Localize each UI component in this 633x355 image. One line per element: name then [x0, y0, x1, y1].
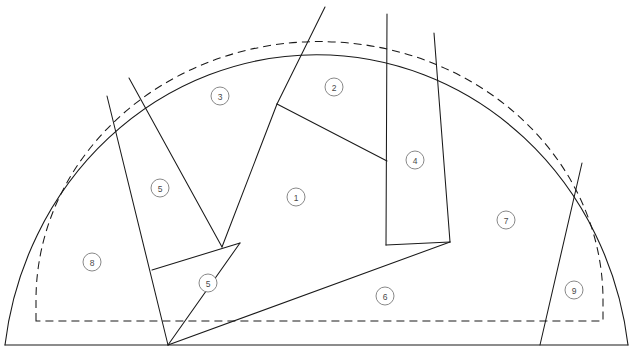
inner-dashed-arc — [36, 42, 603, 321]
divider-lines-group — [107, 7, 582, 345]
region-label-text-9: 9 — [572, 286, 577, 296]
outer-arc — [5, 55, 628, 345]
divider-1-2 — [277, 7, 325, 104]
region-label-text-2: 2 — [332, 83, 337, 93]
divider-1-6-right — [386, 242, 450, 245]
region-label-9[interactable]: 9 — [565, 281, 583, 299]
region-label-text-5a: 5 — [158, 184, 163, 194]
region-labels-group: 1234556789 — [83, 78, 583, 305]
region-label-8[interactable]: 8 — [83, 253, 101, 271]
region-label-text-4: 4 — [413, 156, 418, 166]
divider-8-5a — [107, 96, 168, 345]
region-label-1[interactable]: 1 — [287, 188, 305, 206]
region-label-6[interactable]: 6 — [376, 287, 394, 305]
divider-3-1 — [222, 104, 277, 247]
divider-4-7 — [434, 33, 450, 242]
dome-diagram: 1234556789 — [0, 0, 633, 355]
dome-outline-group — [5, 55, 628, 345]
region-label-5b[interactable]: 5 — [199, 274, 217, 292]
region-label-text-8: 8 — [90, 258, 95, 268]
divider-5a-3 — [129, 78, 222, 247]
inner-dashed-boundary-group — [36, 42, 603, 321]
region-label-2[interactable]: 2 — [325, 78, 343, 96]
divider-5a-5b — [152, 243, 240, 270]
divider-1-top — [277, 104, 387, 161]
region-label-3[interactable]: 3 — [211, 87, 229, 105]
region-label-text-7: 7 — [504, 216, 509, 226]
region-label-4[interactable]: 4 — [406, 151, 424, 169]
region-label-text-1: 1 — [294, 193, 299, 203]
region-label-text-6: 6 — [383, 292, 388, 302]
divider-7-9 — [540, 163, 582, 345]
region-label-7[interactable]: 7 — [497, 211, 515, 229]
region-label-5a[interactable]: 5 — [151, 179, 169, 197]
diagram-canvas: 1234556789 — [0, 0, 633, 355]
region-label-text-5b: 5 — [206, 279, 211, 289]
divider-6-upper — [168, 242, 450, 345]
region-label-text-3: 3 — [218, 92, 223, 102]
divider-1-5b — [168, 243, 240, 345]
